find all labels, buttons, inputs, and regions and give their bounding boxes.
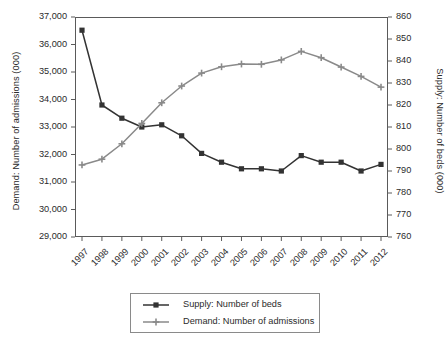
right-tick-label: 840 [396, 55, 436, 65]
right-tick-label: 860 [396, 11, 436, 21]
right-tick-label: 800 [396, 143, 436, 153]
data-point-marker [153, 302, 158, 307]
legend-swatch-plus-icon [141, 316, 171, 328]
right-axis-title: Supply: Number of beds (000) [435, 21, 445, 241]
left-tick-label: 31,000 [21, 176, 67, 186]
left-tick-label: 30,000 [21, 204, 67, 214]
left-tick-label: 37,000 [21, 11, 67, 21]
left-tick-label: 34,000 [21, 94, 67, 104]
left-tick-label: 29,000 [21, 231, 67, 241]
right-tick-label: 830 [396, 77, 436, 87]
right-tick-label: 820 [396, 99, 436, 109]
right-tick-label: 770 [396, 209, 436, 219]
left-tick-label: 32,000 [21, 149, 67, 159]
right-tick-label: 810 [396, 121, 436, 131]
legend-label: Supply: Number of beds [183, 299, 282, 309]
left-tick-label: 33,000 [21, 121, 67, 131]
plot-area [75, 17, 388, 237]
legend-swatch-square-icon [141, 299, 171, 311]
right-tick-label: 760 [396, 231, 436, 241]
left-tick-label: 36,000 [21, 39, 67, 49]
right-tick-label: 780 [396, 187, 436, 197]
right-tick-label: 790 [396, 165, 436, 175]
chart-legend: Supply: Number of bedsDemand: Number of … [130, 293, 320, 333]
left-axis-title: Demand: Number of admissions (000) [11, 21, 21, 241]
chart-container: Demand: Number of admissions (000) Suppl… [0, 0, 445, 342]
legend-label: Demand: Number of admissions [183, 316, 314, 326]
left-tick-label: 35,000 [21, 66, 67, 76]
right-tick-label: 850 [396, 33, 436, 43]
